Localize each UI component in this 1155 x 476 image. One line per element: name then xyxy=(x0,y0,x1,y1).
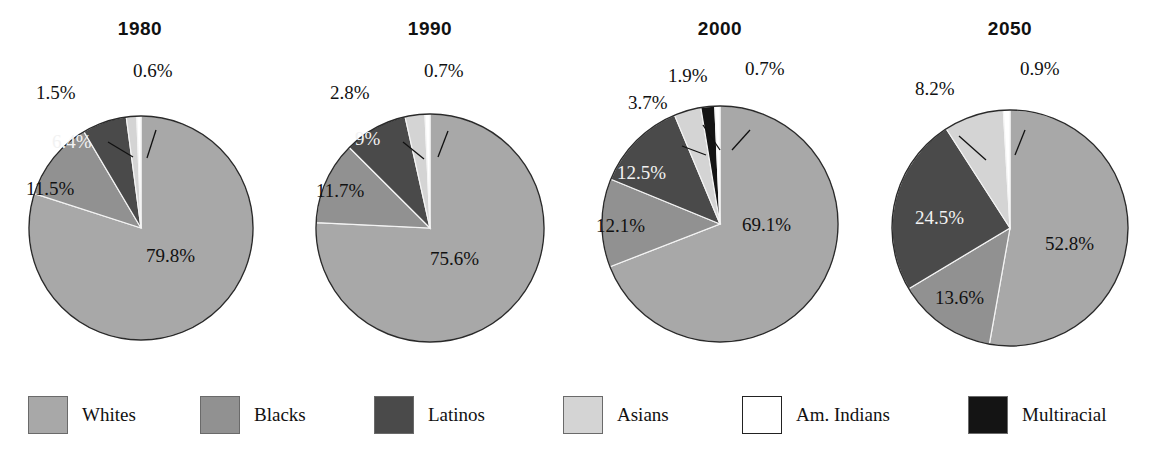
pie-2050 xyxy=(870,100,1155,360)
panel-title-1980: 1980 xyxy=(80,18,200,40)
value-label-2050-whites: 52.8% xyxy=(1045,233,1094,255)
legend-item-asians[interactable]: Asians xyxy=(563,396,669,434)
panel-title-2050: 2050 xyxy=(950,18,1070,40)
legend: Whites Blacks Latinos Asians Am. Indians… xyxy=(0,396,1155,456)
legend-swatch-whites xyxy=(28,396,68,434)
value-label-2000-blacks: 12.1% xyxy=(596,215,645,237)
chart-canvas: 1980 1.5% 0.6% 6.4% 11.5% 79.8% 1990 2.8… xyxy=(0,0,1155,476)
legend-item-am-indians[interactable]: Am. Indians xyxy=(742,396,890,434)
value-label-1980-whites: 79.8% xyxy=(146,245,195,267)
value-label-2050-amindians: 0.9% xyxy=(1020,58,1060,80)
legend-item-latinos[interactable]: Latinos xyxy=(374,396,485,434)
legend-item-whites[interactable]: Whites xyxy=(28,396,136,434)
legend-swatch-am-indians xyxy=(742,396,782,434)
legend-item-multiracial[interactable]: Multiracial xyxy=(968,396,1106,434)
value-label-2000-multiracial: 1.9% xyxy=(668,65,708,87)
value-label-1990-amindians: 0.7% xyxy=(424,60,464,82)
pie-1990-svg xyxy=(290,100,580,360)
value-label-2000-asians: 3.7% xyxy=(628,92,668,114)
legend-item-blacks[interactable]: Blacks xyxy=(200,396,306,434)
value-label-1980-amindians: 0.6% xyxy=(133,60,173,82)
legend-swatch-blacks xyxy=(200,396,240,434)
legend-swatch-latinos xyxy=(374,396,414,434)
pie-2050-svg xyxy=(870,100,1155,360)
legend-label-asians: Asians xyxy=(617,404,669,426)
legend-label-latinos: Latinos xyxy=(428,404,485,426)
legend-swatch-asians xyxy=(563,396,603,434)
legend-label-blacks: Blacks xyxy=(254,404,306,426)
panel-title-1990: 1990 xyxy=(370,18,490,40)
value-label-1990-asians: 2.8% xyxy=(330,82,370,104)
value-label-1980-blacks: 11.5% xyxy=(26,178,74,200)
legend-swatch-multiracial xyxy=(968,396,1008,434)
value-label-1980-asians: 1.5% xyxy=(36,82,76,104)
legend-label-multiracial: Multiracial xyxy=(1022,404,1106,426)
legend-label-am-indians: Am. Indians xyxy=(796,404,890,426)
value-label-2000-amindians: 0.7% xyxy=(745,58,785,80)
pie-1990 xyxy=(290,100,580,360)
value-label-2050-asians: 8.2% xyxy=(915,78,955,100)
value-label-1990-whites: 75.6% xyxy=(430,248,479,270)
pie-1980 xyxy=(0,100,290,360)
pie-1980-svg xyxy=(0,100,290,360)
value-label-2050-latinos: 24.5% xyxy=(915,207,964,229)
value-label-1980-latinos: 6.4% xyxy=(52,131,92,153)
panel-title-2000: 2000 xyxy=(660,18,780,40)
value-label-2050-blacks: 13.6% xyxy=(935,287,984,309)
value-label-1990-latinos: 9% xyxy=(355,128,380,150)
value-label-2000-latinos: 12.5% xyxy=(617,162,666,184)
value-label-2000-whites: 69.1% xyxy=(742,214,791,236)
value-label-1990-blacks: 11.7% xyxy=(316,180,364,202)
legend-label-whites: Whites xyxy=(82,404,136,426)
